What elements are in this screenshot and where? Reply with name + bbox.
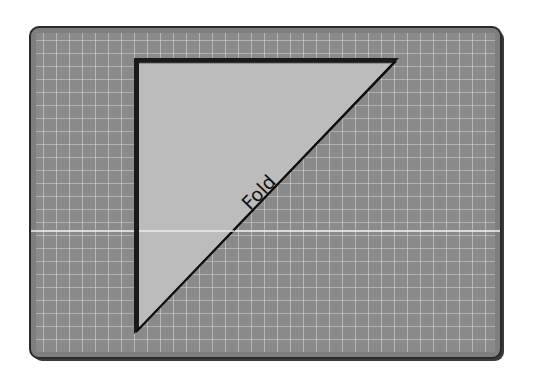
fold-diagram: Fold (0, 0, 534, 372)
